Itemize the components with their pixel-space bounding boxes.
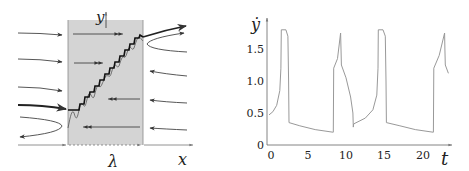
flow-arrow [150,128,187,130]
x-tick: 0 [268,149,275,162]
x-tick: 20 [416,149,430,162]
phase-portrait-panel: y x λ [18,8,193,171]
flow-arrow-bold [18,105,66,109]
y-tick: 1.5 [247,43,265,56]
y-tick: 0 [257,139,264,152]
flow-arrow [18,59,62,62]
velocity-chart: ẏ t 1.5 1.0 0.5 0 0 5 10 15 20 [247,15,453,169]
flow-arrow [150,71,187,76]
lambda-label: λ [107,152,118,171]
x-tick-labels: 0 5 10 15 20 [268,149,431,162]
exit-trajectory-bold [143,26,186,37]
flow-hairpin-right [147,33,187,52]
flow-arrow [18,87,62,91]
x-axis-label: x [178,150,187,169]
y-tick: 1.0 [247,75,265,88]
chart-x-label: t [441,148,449,169]
figure: y x λ ẏ t 1.5 1.0 0.5 0 [0,0,469,171]
flow-hairpin [20,117,62,137]
pinning-band [68,20,143,145]
flow-arrow [150,100,187,103]
x-tick: 15 [377,149,391,162]
y-axis-label: y [95,8,105,26]
x-tick: 10 [339,149,353,162]
flow-arrow [18,33,62,35]
y-tick-labels: 1.5 1.0 0.5 0 [247,43,265,152]
x-tick: 5 [305,149,312,162]
chart-y-label: ẏ [250,15,261,34]
velocity-series-line [269,30,448,132]
y-tick: 0.5 [247,107,265,120]
